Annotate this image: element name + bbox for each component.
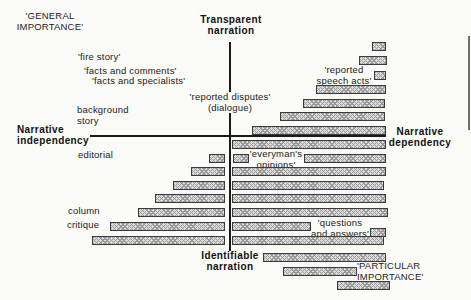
bar <box>283 267 357 276</box>
label-line: IMPORTANCE' <box>17 22 83 33</box>
label-line: narration <box>201 261 259 272</box>
bar <box>138 208 225 217</box>
label-line: 'reported disputes' <box>190 92 271 103</box>
label-critique: critique <box>67 220 99 231</box>
label-reported-disputes: 'reported disputes' (dialogue) <box>188 92 273 113</box>
label-line: (dialogue) <box>190 103 271 114</box>
label-background-story: background story <box>77 105 129 126</box>
bar <box>232 236 384 245</box>
bar <box>337 281 390 290</box>
bar <box>232 140 386 149</box>
diagram-canvas: 'GENERAL IMPORTANCE' 'PARTICULAR IMPORTA… <box>0 0 471 300</box>
label-line: 'reported <box>317 65 372 76</box>
bar <box>232 194 386 203</box>
label-line: 'questions <box>311 218 369 229</box>
label-particular-importance: 'PARTICULAR IMPORTANCE' <box>357 261 423 282</box>
bar <box>372 42 386 51</box>
label-general-importance: 'GENERAL IMPORTANCE' <box>17 11 83 32</box>
bar <box>232 167 386 176</box>
axis-label-transparent-narration: Transparent narration <box>200 14 262 36</box>
label-line: dependency <box>389 137 451 148</box>
label-fire-story: 'fire story' <box>78 52 120 63</box>
bar <box>232 222 311 231</box>
label-facts-and-specialists: 'facts and specialists' <box>92 76 185 87</box>
bar <box>92 236 225 245</box>
label-editorial: editorial <box>78 150 113 161</box>
bar <box>233 154 249 163</box>
label-column: column <box>68 206 100 217</box>
bar <box>374 71 386 80</box>
bar <box>316 85 386 94</box>
label-reported-speech-acts: 'reported speech acts' <box>317 65 372 86</box>
label-line: 'GENERAL <box>17 11 83 22</box>
bar <box>280 112 385 121</box>
label-line: Transparent <box>200 14 262 25</box>
bar <box>191 167 225 176</box>
label-line: independency <box>17 135 89 146</box>
label-line: narration <box>200 25 262 36</box>
bar <box>232 208 388 217</box>
bar <box>252 126 386 135</box>
label-line: 'everyman's <box>250 149 302 160</box>
horizontal-axis-line <box>90 135 386 137</box>
axis-label-identifiable-narration: Identifiable narration <box>201 250 259 272</box>
bar <box>303 99 385 108</box>
bar <box>263 253 386 262</box>
axis-label-narrative-dependency: Narrative dependency <box>389 126 451 148</box>
label-line: 'PARTICULAR <box>357 261 423 272</box>
bar <box>110 222 225 231</box>
bar <box>173 181 225 190</box>
bar <box>304 154 386 163</box>
label-line: Narrative <box>389 126 451 137</box>
scan-edge-artifact <box>468 36 470 130</box>
vertical-axis-line <box>229 42 231 251</box>
label-line: story <box>77 116 129 127</box>
bar <box>209 154 225 163</box>
axis-label-narrative-independency: Narrative independency <box>17 124 89 146</box>
bar <box>359 56 387 65</box>
bar <box>155 194 225 203</box>
label-line: Identifiable <box>201 250 259 261</box>
bar <box>232 181 384 190</box>
label-line: background <box>77 105 129 116</box>
